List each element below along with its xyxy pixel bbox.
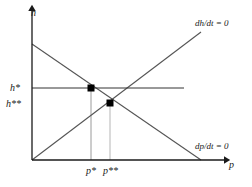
x-tick-label-p-double-star: p** [103,166,118,176]
phase-diagram-figure: h p h* h** p* p** dh/dt = 0 dp/dt = 0 [0,0,252,187]
curve-dp-dt-zero [32,44,201,160]
phase-diagram-canvas [0,0,252,187]
x-tick-label-p-star: p* [86,166,96,176]
x-axis-label: p [229,160,234,170]
marker-equilibrium-h-star [88,85,95,92]
y-tick-label-h-star: h* [10,83,20,93]
curve-dh-dt-zero [32,32,201,160]
y-axis-label: h [31,8,36,18]
curve-label-dh-dt-zero: dh/dt = 0 [195,19,229,28]
curve-label-dp-dt-zero: dp/dt = 0 [195,142,229,151]
marker-equilibrium-h-double-star [107,100,114,107]
y-tick-label-h-double-star: h** [6,99,21,109]
